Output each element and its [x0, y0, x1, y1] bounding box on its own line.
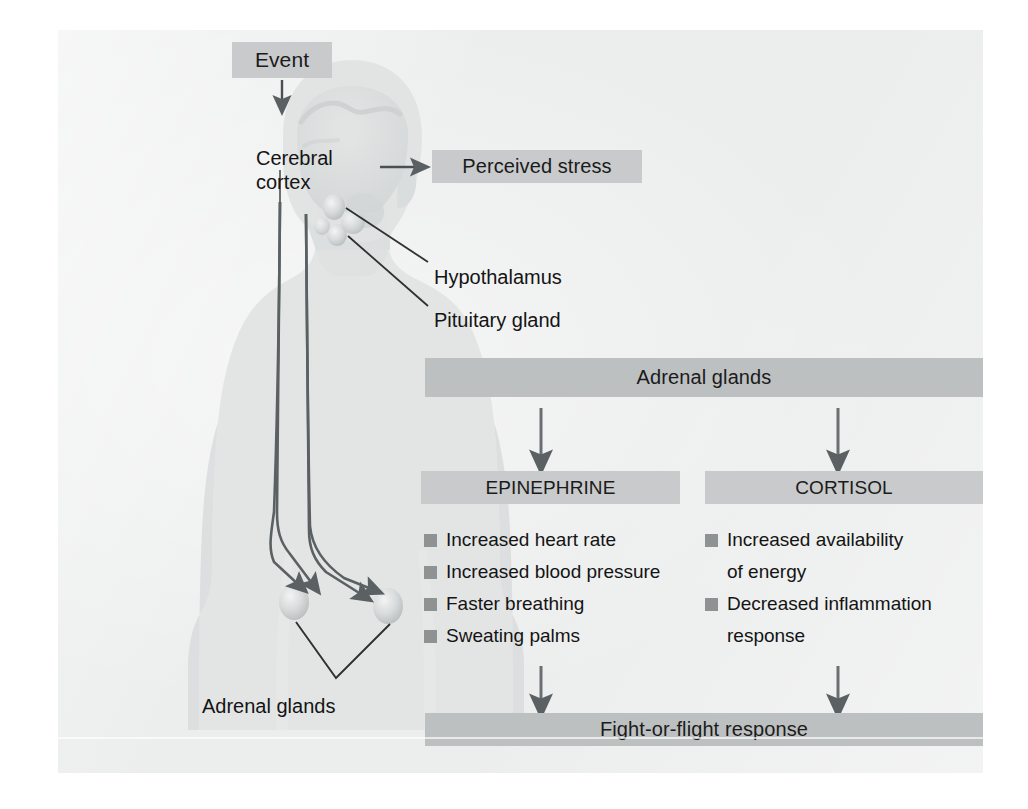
bullet-spacer — [705, 566, 718, 579]
leader-adrenal-glands — [296, 622, 390, 678]
epinephrine-effect-row: Increased blood pressure — [424, 560, 689, 584]
box-fight-or-flight: Fight-or-flight response — [425, 713, 983, 746]
box-epinephrine: EPINEPHRINE — [421, 471, 680, 504]
leader-hypothalamus — [346, 208, 428, 262]
box-adrenal-glands: Adrenal glands — [425, 358, 983, 397]
cortisol-effect-text: of energy — [727, 560, 806, 584]
leader-pituitary — [348, 236, 428, 306]
screenshot-canvas: Event Perceived stress Adrenal glands EP… — [0, 0, 1028, 809]
cortisol-effect-text: Increased availability — [727, 528, 903, 552]
epinephrine-effect-row: Faster breathing — [424, 592, 689, 616]
epinephrine-effect-text: Faster breathing — [446, 592, 584, 616]
list-cortisol-effects: Increased availabilityof energyDecreased… — [705, 528, 975, 656]
diagram-plate: Event Perceived stress Adrenal glands EP… — [58, 30, 983, 773]
box-event: Event — [232, 42, 332, 78]
epinephrine-effect-text: Increased heart rate — [446, 528, 616, 552]
cortisol-effect-row: of energy — [705, 560, 975, 584]
bullet-square-icon — [424, 566, 437, 579]
box-perceived-stress: Perceived stress — [432, 150, 642, 183]
epinephrine-effect-row: Sweating palms — [424, 624, 689, 648]
label-pituitary-gland: Pituitary gland — [434, 309, 561, 332]
box-cortisol: CORTISOL — [705, 471, 983, 504]
cortisol-effect-text: response — [727, 624, 805, 648]
cortisol-effect-text: Decreased inflammation — [727, 592, 932, 616]
bullet-square-icon — [705, 598, 718, 611]
bullet-spacer — [705, 630, 718, 643]
label-adrenal-glands-body: Adrenal glands — [202, 695, 335, 718]
nerve-path-left-cross — [271, 202, 300, 586]
cortisol-effect-row: response — [705, 624, 975, 648]
epinephrine-effect-row: Increased heart rate — [424, 528, 689, 552]
cortisol-effect-row: Decreased inflammation — [705, 592, 975, 616]
bullet-square-icon — [424, 598, 437, 611]
bullet-square-icon — [424, 534, 437, 547]
nerve-path-right — [306, 214, 364, 596]
epinephrine-effect-text: Sweating palms — [446, 624, 580, 648]
cortisol-effect-row: Increased availability — [705, 528, 975, 552]
bullet-square-icon — [424, 630, 437, 643]
label-hypothalamus: Hypothalamus — [434, 266, 562, 289]
list-epinephrine-effects: Increased heart rateIncreased blood pres… — [424, 528, 689, 656]
nerve-path-right-cross — [306, 214, 374, 590]
connector-layer — [58, 30, 983, 773]
epinephrine-effect-text: Increased blood pressure — [446, 560, 660, 584]
label-cerebral-cortex: Cerebral cortex — [256, 146, 366, 194]
bullet-square-icon — [705, 534, 718, 547]
